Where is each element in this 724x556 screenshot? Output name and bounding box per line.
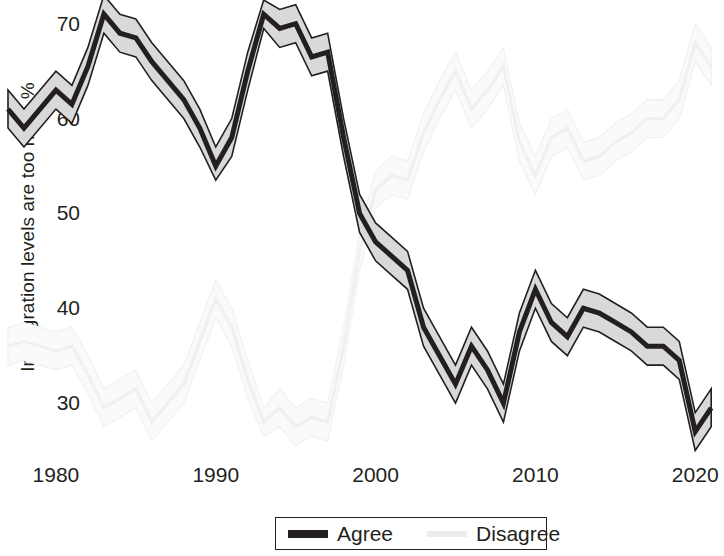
legend-label-agree: Agree — [337, 523, 393, 544]
legend-label-disagree: Disagree — [476, 523, 560, 544]
legend-swatch-agree — [288, 530, 328, 538]
plot-area — [0, 0, 724, 460]
chart-legend: AgreeDisagree — [275, 517, 547, 550]
x-tick-label: 2020 — [650, 462, 724, 487]
x-tick-label: 1990 — [171, 462, 261, 487]
legend-swatch-disagree — [427, 531, 467, 537]
x-tick-label: 1980 — [11, 462, 101, 487]
chart-figure: Immigration levels are too high, % 70605… — [0, 0, 724, 556]
legend-entry-disagree[interactable]: Disagree — [427, 523, 560, 544]
legend-entry-agree[interactable]: Agree — [288, 523, 393, 544]
x-tick-label: 2000 — [331, 462, 421, 487]
series-disagree — [8, 24, 711, 446]
x-axis-tick-labels: 19801990200020102020 — [0, 462, 724, 496]
x-tick-label: 2010 — [490, 462, 580, 487]
confidence-band-disagree — [8, 24, 711, 446]
